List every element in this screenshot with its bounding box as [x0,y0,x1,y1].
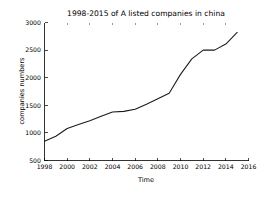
x-axis-label: Time [137,176,154,184]
x-tick-label: 2006 [127,163,143,170]
y-tick-label: 2000 [25,74,41,81]
x-axis-ticks [45,158,249,161]
y-tick-label: 3000 [25,19,41,26]
x-tick-label: 2000 [59,163,75,170]
top-axis-ticks [67,23,226,25]
x-tick-label: 2002 [82,163,98,170]
x-tick-label: 2014 [218,163,234,170]
y-tick-label: 1000 [25,129,41,136]
x-tick-label: 2016 [241,163,257,170]
y-tick-label: 2500 [25,46,41,53]
x-tick-label: 2010 [173,163,189,170]
chart-title: 1998-2015 of A listed companies in china [67,9,225,18]
line-chart: 3000 2500 2000 1500 1000 500 1998 2000 2… [0,0,267,197]
x-tick-label: 2012 [195,163,211,170]
y-tick-labels: 3000 2500 2000 1500 1000 500 [25,19,41,164]
x-tick-label: 2004 [105,163,121,170]
x-tick-label: 1998 [37,163,53,170]
y-axis-label: companies numbers [18,57,26,125]
chart-figure: 3000 2500 2000 1500 1000 500 1998 2000 2… [0,0,267,197]
axis-spines [45,23,249,161]
x-tick-label: 2008 [150,163,166,170]
y-tick-label: 1500 [25,102,41,109]
data-series-line [45,32,238,141]
x-tick-labels: 1998 2000 2002 2004 2006 2008 2010 2012 … [37,163,257,170]
